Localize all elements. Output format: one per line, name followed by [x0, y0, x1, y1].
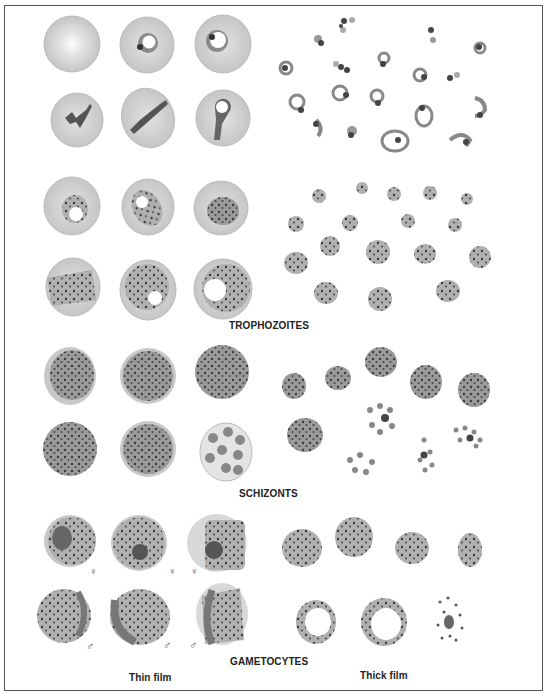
gametocyte-thin-female	[44, 514, 247, 572]
troph-thin-row1	[44, 15, 251, 73]
male-symbol: ♂	[189, 639, 197, 651]
column-label-thick-film: Thick film	[360, 670, 408, 681]
troph-thin-row2	[51, 81, 250, 155]
section-label-gametocytes: GAMETOCYTES	[230, 656, 308, 667]
schizont-thin-row1	[44, 345, 249, 405]
schizont-thin-row2	[43, 421, 252, 481]
gametocyte-thick-film	[282, 517, 482, 646]
male-symbol: ♂	[163, 639, 171, 651]
section-label-trophozoites: TROPHOZOITES	[229, 320, 309, 331]
gametocyte-thin-male	[37, 583, 248, 645]
troph-thick-film-2	[284, 182, 491, 311]
column-label-thin-film: Thin film	[129, 672, 172, 683]
male-symbol: ♂	[86, 640, 94, 652]
schizont-thick-film	[282, 347, 490, 475]
troph-thin-row3	[44, 177, 248, 235]
plate-illustration	[0, 0, 549, 697]
female-symbol: ♀	[168, 565, 176, 577]
section-label-schizonts: SCHIZONTS	[239, 488, 298, 499]
troph-thick-film	[280, 17, 485, 151]
female-symbol: ♀	[190, 565, 198, 577]
troph-thin-row4	[46, 258, 252, 320]
female-symbol: ♀	[89, 565, 97, 577]
